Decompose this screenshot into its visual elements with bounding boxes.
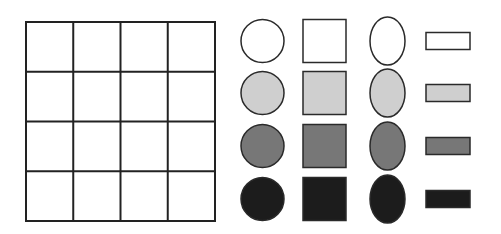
bar-shape-black bbox=[426, 191, 470, 208]
circle-shape-light-gray bbox=[241, 72, 284, 115]
circle-shape-mid-gray bbox=[241, 125, 284, 168]
square-shape-black bbox=[303, 178, 346, 221]
shapes-diagram bbox=[0, 0, 501, 234]
ellipse-shape-black bbox=[370, 175, 405, 223]
circle-shape-white bbox=[241, 20, 284, 63]
circle-shape-black bbox=[241, 178, 284, 221]
grid-4x4 bbox=[26, 22, 215, 221]
ellipse-shape-mid-gray bbox=[370, 122, 405, 170]
figure-canvas bbox=[0, 0, 501, 234]
square-shape-white bbox=[303, 20, 346, 63]
bar-shape-white bbox=[426, 33, 470, 50]
bar-shape-light-gray bbox=[426, 85, 470, 102]
square-shape-mid-gray bbox=[303, 125, 346, 168]
square-shape-light-gray bbox=[303, 72, 346, 115]
ellipse-shape-light-gray bbox=[370, 69, 405, 117]
ellipse-shape-white bbox=[370, 17, 405, 65]
bar-shape-mid-gray bbox=[426, 138, 470, 155]
